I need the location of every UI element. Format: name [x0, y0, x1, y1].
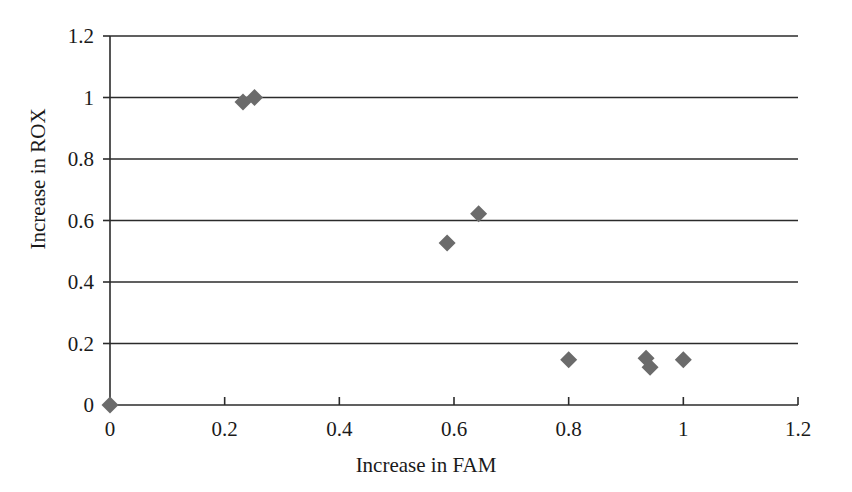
- y-axis-label: Increase in ROX: [26, 189, 51, 249]
- x-tick-label: 0.2: [212, 419, 238, 440]
- scatter-chart-figure: 00.20.40.60.811.2 00.20.40.60.811.2 Incr…: [0, 0, 852, 492]
- y-tick-label: 0: [30, 395, 94, 416]
- data-point-marker: [470, 205, 487, 222]
- y-tick-label: 1.2: [30, 26, 94, 47]
- x-tick-label: 1: [678, 419, 689, 440]
- data-point-marker: [439, 234, 456, 251]
- gridlines-group: [110, 36, 798, 344]
- x-tick-label: 0.8: [556, 419, 582, 440]
- data-point-marker: [675, 351, 692, 368]
- x-tick-label: 0: [105, 419, 116, 440]
- x-tick-label: 0.6: [441, 419, 467, 440]
- data-point-marker: [560, 351, 577, 368]
- x-axis-label: Increase in FAM: [0, 453, 852, 478]
- y-tick-label: 0.4: [30, 272, 94, 293]
- y-tick-label: 0.2: [30, 333, 94, 354]
- data-markers-group: [102, 89, 692, 414]
- y-tick-label: 1: [30, 87, 94, 108]
- plot-canvas: [0, 0, 852, 492]
- x-tick-label: 1.2: [785, 419, 811, 440]
- data-point-marker: [102, 397, 119, 414]
- x-tick-label: 0.4: [326, 419, 352, 440]
